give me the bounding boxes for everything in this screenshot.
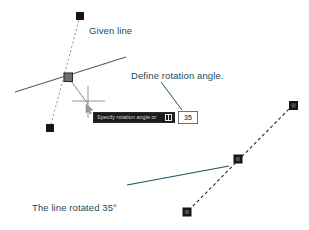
rotation-angle-value: 35 (184, 114, 192, 122)
rotation-angle-input[interactable]: 35 (178, 111, 198, 124)
leader-define-angle (161, 82, 182, 110)
construction-dashed-line (50, 16, 80, 128)
annotation-rotated-line: The line rotated 35° about its midpoint (32, 179, 117, 230)
grip-original-bottom[interactable] (46, 124, 54, 132)
expand-options-icon[interactable] (165, 114, 172, 121)
annotation-given-line: Given line (89, 25, 132, 37)
grip-rotated-bottom[interactable] (183, 208, 192, 217)
annotation-rotated-line-1: The line rotated 35° (32, 202, 117, 214)
dynamic-input-prompt-bar: Specify rotation angle or (93, 112, 175, 123)
leader-rotated-line (127, 166, 229, 185)
annotation-define-rotation-angle: Define rotation angle. (131, 70, 224, 82)
grip-original-midpoint[interactable] (64, 73, 73, 82)
grip-rotated-top[interactable] (289, 101, 298, 110)
dynamic-input-prompt-text: Specify rotation angle or (97, 114, 163, 121)
grip-rotated-midpoint[interactable] (234, 155, 243, 164)
grip-original-top[interactable] (76, 12, 84, 20)
diagram-canvas: Given line Define rotation angle. The li… (0, 0, 309, 230)
